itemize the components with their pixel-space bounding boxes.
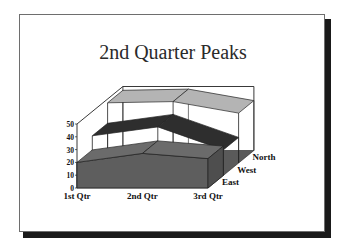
y-axis: 01020304050 xyxy=(67,120,78,193)
x-axis: 1st Qtr2nd Qtr3rd Qtr xyxy=(63,191,223,201)
y-tick-label: 50 xyxy=(67,120,75,129)
series-label: North xyxy=(253,152,276,162)
y-tick-label: 20 xyxy=(67,158,75,167)
chart-3d-area: 010203040501st Qtr2nd Qtr3rd QtrEastWest… xyxy=(0,0,344,251)
x-tick-label: 3rd Qtr xyxy=(193,191,223,201)
series-label: East xyxy=(222,177,239,187)
series-east xyxy=(77,141,223,188)
y-tick-label: 40 xyxy=(67,133,75,142)
x-tick-label: 1st Qtr xyxy=(63,191,90,201)
y-tick-label: 30 xyxy=(67,146,75,155)
series-label: West xyxy=(237,165,256,175)
y-tick-label: 10 xyxy=(67,171,75,180)
x-tick-label: 2nd Qtr xyxy=(127,191,158,201)
